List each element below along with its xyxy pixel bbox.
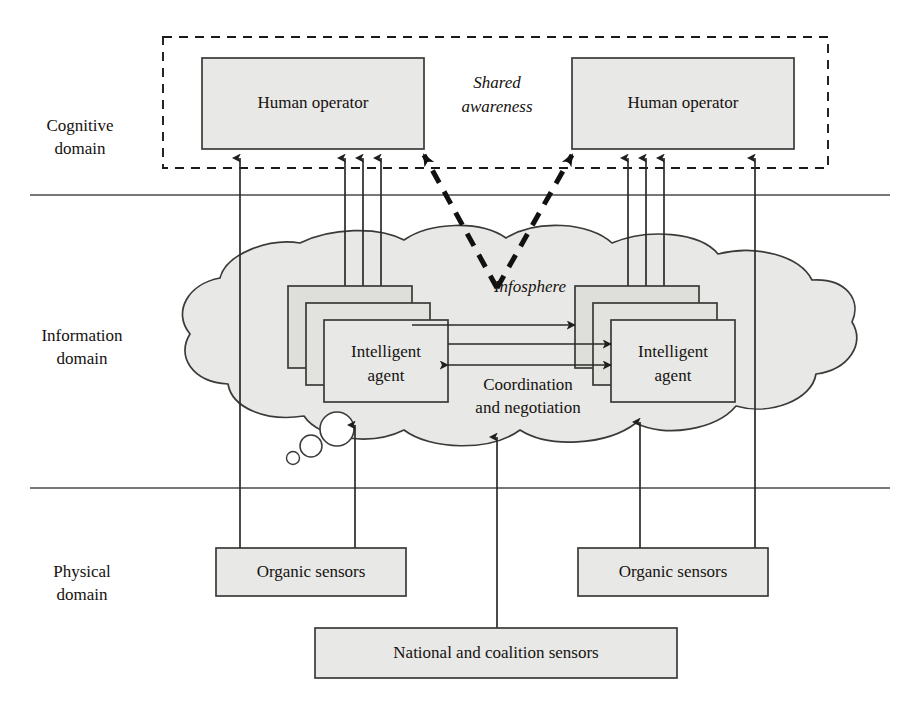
agent-right-label-line1: Intelligent <box>638 342 708 361</box>
human-operator-left[interactable]: Human operator <box>202 58 424 149</box>
shared-awareness-label-line1: Shared <box>473 73 521 92</box>
diagram-canvas: Intelligent agent Intelligent agent Coor… <box>0 0 915 712</box>
network-centric-architecture-diagram: Intelligent agent Intelligent agent Coor… <box>0 0 915 712</box>
national-coalition-sensors[interactable]: National and coalition sensors <box>315 628 677 678</box>
domain-information-line2: domain <box>57 349 108 368</box>
domain-cognitive-line1: Cognitive <box>46 116 113 135</box>
agent-right-card-front[interactable] <box>611 320 735 402</box>
domain-physical-line2: domain <box>57 585 108 604</box>
agent-stack-left: Intelligent agent <box>288 286 448 402</box>
organic-sensors-right-label: Organic sensors <box>619 562 728 581</box>
organic-sensors-right[interactable]: Organic sensors <box>578 548 768 596</box>
shared-awareness-label-line2: awareness <box>461 97 533 116</box>
domain-cognitive-line2: domain <box>55 139 106 158</box>
domain-information-line1: Information <box>41 326 123 345</box>
agent-left-card-front[interactable] <box>324 320 448 402</box>
human-operator-right-label: Human operator <box>628 93 739 112</box>
organic-sensors-left-label: Organic sensors <box>257 562 366 581</box>
national-coalition-sensors-label: National and coalition sensors <box>393 643 598 662</box>
domain-label-information: Information domain <box>41 326 123 368</box>
agent-left-label-line2: agent <box>368 366 405 385</box>
organic-sensors-left[interactable]: Organic sensors <box>216 548 406 596</box>
agent-left-label-line1: Intelligent <box>351 342 421 361</box>
infosphere-label: Infosphere <box>493 277 567 296</box>
coordination-label-line2: and negotiation <box>475 398 581 417</box>
human-operator-right[interactable]: Human operator <box>572 58 794 149</box>
domain-label-cognitive: Cognitive domain <box>46 116 113 158</box>
domain-label-physical: Physical domain <box>53 562 111 604</box>
human-operator-left-label: Human operator <box>258 93 369 112</box>
domain-physical-line1: Physical <box>53 562 111 581</box>
coordination-label-line1: Coordination <box>483 375 573 394</box>
agent-right-label-line2: agent <box>655 366 692 385</box>
